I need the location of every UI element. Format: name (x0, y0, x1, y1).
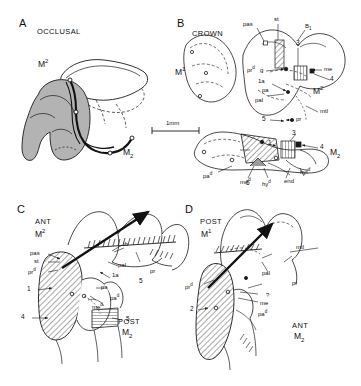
panel-c-label-pal: pal (118, 262, 126, 268)
scale-bar-label: 1mm (166, 120, 179, 126)
panel-c-label-prd: prd (28, 268, 36, 275)
panel-b-number-5: 5 (262, 116, 266, 123)
panel-b-number-4b: 4 (320, 144, 324, 151)
panel-b-label-b1: B1 (305, 23, 312, 32)
panel-c-tooth-m2-upper: M2 (35, 228, 45, 238)
panel-d-label-mtl: mtl (296, 244, 304, 250)
panel-d-tooth-m2-lower: M2 (294, 332, 304, 343)
d-superscript: d (100, 302, 103, 307)
panel-b-artwork (184, 24, 345, 178)
panel-b-label-hyld: hyld (300, 168, 310, 175)
panel-b-label-hyd: hyd (262, 180, 271, 187)
panel-b-label-pal: pal (255, 97, 263, 103)
panel-d-label-pad: pad (258, 310, 267, 317)
pa-letters: pa (110, 295, 117, 301)
figure-canvas: A OCCLUSAL M2 M2 1mm B CROWN M1 M2 M2 pa… (0, 0, 361, 386)
panel-b-number-3: 3 (296, 40, 300, 47)
panel-c-label-med: med (92, 303, 103, 310)
m-superscript: 1 (208, 228, 211, 234)
m-superscript: 2 (320, 85, 323, 91)
panel-c-label-pa: pa (101, 284, 108, 290)
panel-d-tooth-m1: M1 (201, 228, 211, 238)
panel-c-label-pr: pr (150, 268, 155, 274)
panel-d-view-ant: ANT (292, 322, 308, 330)
panel-b-number-5b: 5 (246, 180, 250, 187)
panel-a-tooth-m2-upper: M2 (38, 58, 48, 68)
m-superscript: 2 (45, 58, 48, 64)
panel-c-artwork (32, 212, 189, 364)
panel-c-letter: C (17, 204, 25, 215)
d-superscript: d (33, 267, 36, 272)
panel-c-number-5: 5 (126, 316, 130, 323)
panel-b-label-pr: pr (296, 116, 301, 122)
panel-d-letter: D (185, 204, 193, 215)
panel-b-view-label: CROWN (192, 30, 223, 38)
b-subscript: 1 (309, 26, 312, 31)
panel-b-label-me: me (324, 66, 332, 72)
panel-b-label-1a: 1a (258, 78, 265, 84)
m-subscript: 2 (301, 337, 304, 343)
panel-c-number-4: 4 (21, 314, 25, 321)
d-superscript: d (252, 65, 255, 70)
panel-d-number-2: 2 (190, 306, 194, 313)
panel-c-number-1: 1 (27, 286, 31, 293)
panel-c-label-tb: tb (123, 241, 128, 247)
panel-b-label-st: st (274, 16, 279, 22)
panel-b-tooth-m2-lower: M2 (330, 148, 340, 159)
pa-letters: pa (258, 311, 265, 317)
panel-c-view-ant: ANT (35, 218, 51, 226)
d-superscript: d (190, 282, 193, 287)
hyl-letters: hyl (300, 169, 308, 175)
panel-c-label-pad: pad (110, 294, 119, 301)
d-superscript: d (210, 171, 213, 176)
panel-b-label-end: end (284, 178, 294, 184)
scale-bar (152, 127, 199, 134)
panel-d-label-pr: pr (292, 280, 297, 286)
panel-b-number-1: 1 (268, 140, 272, 147)
panel-d-label-prd: prd (185, 283, 193, 290)
panel-b-label-pad: pad (203, 172, 212, 179)
panel-b-label-g: g (260, 67, 263, 73)
panel-a-tooth-m2-lower: M2 (123, 148, 133, 159)
panel-b-tooth-m2-upper: M2 (313, 85, 323, 95)
panel-c-label-pas: pas (30, 250, 40, 256)
d-superscript: d (117, 293, 120, 298)
m-superscript: 1 (182, 66, 185, 72)
d-superscript: d (308, 167, 311, 172)
panel-c-label-1a: 1a (112, 272, 119, 278)
m-subscript: 2 (129, 333, 132, 339)
panel-a-artwork (22, 60, 148, 161)
d-superscript: d (265, 309, 268, 314)
pa-letters: pa (203, 173, 210, 179)
panel-b-label-prd: prd (247, 66, 255, 73)
panel-c-label-st: st (34, 258, 39, 264)
panel-b-label-pa: pa (262, 87, 269, 93)
panel-d-label-question: ? (266, 292, 269, 298)
m-superscript: 2 (42, 228, 45, 234)
panel-a-view-label: OCCLUSAL (37, 28, 81, 36)
panel-b-number-3b: 3 (292, 130, 296, 137)
panel-b-letter: B (177, 18, 184, 29)
panel-d-view-post: POST (200, 218, 222, 226)
panel-d-artwork (196, 210, 318, 370)
panel-b-label-mtl: mtl (320, 108, 328, 114)
panel-d-label-pal: pal (262, 270, 270, 276)
panel-b-label-pas: pas (243, 21, 253, 27)
panel-c-number-5b: 5 (139, 278, 143, 285)
m-subscript: 2 (337, 153, 340, 159)
m-subscript: 2 (130, 153, 133, 159)
d-superscript: d (268, 179, 271, 184)
panel-a-letter: A (19, 18, 26, 29)
panel-b-number-4: 4 (330, 76, 334, 83)
panel-c-tooth-m2-lower: M2 (122, 328, 132, 339)
panel-b-tooth-m1: M1 (175, 66, 185, 76)
panel-d-label-me: me (260, 300, 268, 306)
